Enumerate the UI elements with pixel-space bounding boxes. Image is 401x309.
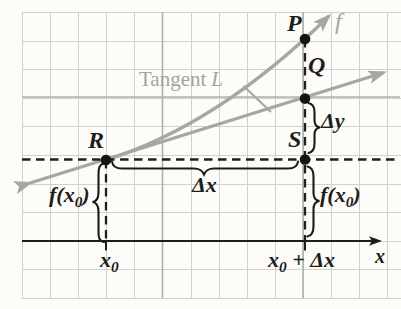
fx0-left-pre: f(x xyxy=(49,182,75,207)
point-label-Q: Q xyxy=(308,53,325,77)
fx0-right-post: ) xyxy=(353,182,360,207)
point-Q-dot xyxy=(300,93,311,104)
x0-tick-label: x0 xyxy=(100,249,119,274)
fx0-label-left: f(x0) xyxy=(49,184,90,209)
diagram-canvas xyxy=(0,0,401,309)
curve-label-f: f xyxy=(335,9,342,33)
x0dx-sub: 0 xyxy=(279,258,287,275)
x0-base: x xyxy=(100,247,111,272)
fx0-right-brace xyxy=(308,167,320,237)
delta-x-label: Δx xyxy=(192,174,217,196)
delta-y-label: Δy xyxy=(321,110,345,132)
x0dx-base: x xyxy=(268,247,279,272)
tangent-label-leader-line xyxy=(244,86,272,112)
fx0-left-brace xyxy=(93,164,105,243)
fx0-left-post: ) xyxy=(82,182,89,207)
point-R-dot xyxy=(101,155,112,166)
x0-plus-dx-tick-label: x0 + Δx xyxy=(268,249,335,274)
point-S-dot xyxy=(300,154,311,165)
fx0-right-pre: f(x xyxy=(320,182,346,207)
x0dx-rest: + Δx xyxy=(287,247,335,272)
point-label-R: R xyxy=(88,128,104,152)
tangent-label-letter-L: L xyxy=(211,67,223,91)
point-label-P: P xyxy=(287,11,302,35)
tangent-label: TangentL xyxy=(139,69,223,90)
delta-y-brace xyxy=(309,103,321,153)
x-axis-label: x xyxy=(375,246,385,266)
tangent-label-word: Tangent xyxy=(139,67,206,91)
fx0-label-right: f(x0) xyxy=(320,184,361,209)
point-label-S: S xyxy=(288,127,301,151)
figure-tangent-line-diagram: P Q R S f TangentL Δy Δx f(x0) f(x0) x0 … xyxy=(0,0,401,309)
x0-sub: 0 xyxy=(111,258,119,275)
